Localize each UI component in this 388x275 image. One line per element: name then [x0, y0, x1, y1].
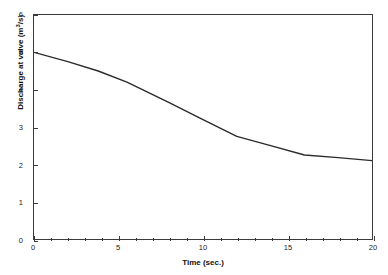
x-tick-mark-major [34, 236, 35, 241]
y-tick-label: 1 [19, 198, 23, 207]
x-tick-mark-minor [255, 238, 256, 241]
x-tick-mark-minor [357, 238, 358, 241]
x-axis-title: Time (sec.) [33, 258, 373, 267]
x-tick-mark-minor [306, 238, 307, 241]
x-tick-mark-minor [153, 238, 154, 241]
x-tick-mark-major [119, 236, 120, 241]
x-tick-mark-minor [272, 238, 273, 241]
y-axis-title-main: Discharge at valve (m [16, 28, 25, 110]
x-tick-mark-major [374, 236, 375, 241]
y-tick-mark [34, 203, 38, 204]
y-tick-label: 3 [19, 123, 23, 132]
x-tick-mark-major [204, 236, 205, 241]
x-tick-mark-minor [323, 238, 324, 241]
x-tick-label: 10 [199, 243, 207, 252]
y-tick-label: 6 [19, 10, 23, 19]
x-tick-mark-minor [187, 238, 188, 241]
x-tick-label: 15 [284, 243, 292, 252]
y-axis: Discharge at valve (m3/s) 0123456 [0, 0, 29, 275]
x-tick-mark-minor [51, 238, 52, 241]
x-tick-mark-minor [85, 238, 86, 241]
y-tick-mark [34, 15, 38, 16]
y-tick-mark [34, 241, 38, 242]
y-tick-mark [34, 128, 38, 129]
y-tick-label: 5 [19, 47, 23, 56]
x-axis: 05101520 [0, 243, 388, 257]
y-axis-title: Discharge at valve (m3/s) [15, 0, 26, 142]
x-tick-mark-minor [170, 238, 171, 241]
x-tick-label: 5 [116, 243, 120, 252]
x-tick-mark-minor [238, 238, 239, 241]
x-tick-mark-minor [68, 238, 69, 241]
y-axis-title-exponent: 3 [15, 24, 21, 27]
chart-figure: Discharge at valve (m3/s) 0123456 051015… [0, 0, 388, 275]
x-tick-mark-major [289, 236, 290, 241]
y-tick-mark [34, 52, 38, 53]
plot-area [33, 14, 373, 240]
y-tick-mark [34, 90, 38, 91]
y-tick-label: 4 [19, 85, 23, 94]
x-tick-label: 0 [31, 243, 35, 252]
x-tick-label: 20 [369, 243, 377, 252]
y-tick-mark [34, 165, 38, 166]
x-tick-mark-minor [102, 238, 103, 241]
x-tick-mark-minor [340, 238, 341, 241]
x-tick-mark-minor [136, 238, 137, 241]
x-tick-mark-minor [221, 238, 222, 241]
data-series-line [34, 15, 372, 239]
cropped-top-text [110, 0, 310, 1]
y-tick-label: 2 [19, 160, 23, 169]
